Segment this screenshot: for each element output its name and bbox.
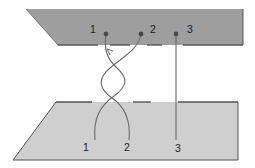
top-plate [26,9,243,45]
top-label-1: 1 [90,23,96,35]
bottom-label-1: 1 [83,141,89,153]
bottom-label-2: 2 [124,141,130,153]
anchor-dot-3 [174,32,179,37]
anchor-dot-2 [139,32,144,37]
top-label-3: 3 [187,23,193,35]
top-label-2: 2 [150,23,156,35]
anchor-dot-1 [104,32,109,37]
bottom-label-3: 3 [175,142,181,154]
twist-arrow-icon [107,49,113,55]
strand-diagram: 1 2 3 1 2 3 [0,0,255,168]
